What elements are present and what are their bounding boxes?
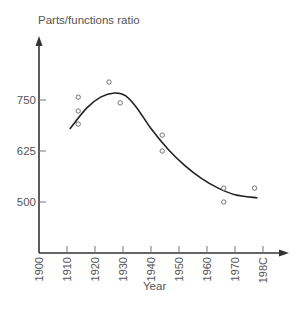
chart-plot: 5006257501900191019201930194019501960197…	[0, 0, 300, 309]
x-tick-label: 1970	[229, 257, 241, 281]
x-axis-title: Year	[143, 280, 166, 292]
data-point	[107, 80, 111, 84]
x-tick-label: 1900	[33, 257, 45, 281]
data-point	[222, 200, 226, 204]
x-tick-label: 1960	[201, 257, 213, 281]
x-tick-label: 1940	[145, 257, 157, 281]
y-tick-label: 500	[17, 196, 36, 208]
axes	[36, 36, 290, 257]
x-tick-label: 1950	[173, 257, 185, 281]
x-tick-label: 1920	[89, 257, 101, 281]
y-tick-label: 750	[17, 94, 36, 106]
data-point	[76, 109, 80, 113]
y-tick-label: 625	[17, 145, 36, 157]
x-tick-label: 1930	[117, 257, 129, 281]
data-point	[222, 186, 226, 190]
data-point	[118, 101, 122, 105]
data-point	[160, 149, 164, 153]
ticks: 5006257501900191019201930194019501960197…	[17, 94, 269, 283]
x-tick-label: 1910	[61, 257, 73, 281]
data-point	[76, 95, 80, 99]
data-point	[76, 122, 80, 126]
data-point	[252, 186, 256, 190]
x-tick-label: 198C	[257, 257, 269, 283]
data-points	[76, 80, 257, 204]
trend-curve	[70, 93, 258, 198]
data-point	[160, 133, 164, 137]
